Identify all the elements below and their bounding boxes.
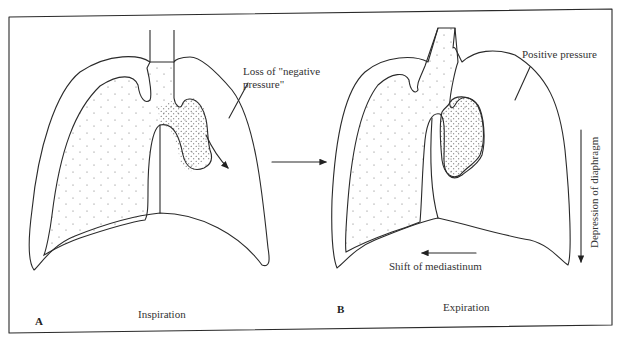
panel-a: Loss of "negative pressure" A Inspiratio… [29,30,320,327]
panel-b-letter: B [337,303,345,315]
pneumothorax-diagram: Loss of "negative pressure" A Inspiratio… [0,0,627,344]
panel-a-letter: A [35,315,43,327]
shift-mediastinum-label: Shift of mediastinum [389,260,482,272]
panel-b-caption: Expiration [443,301,490,313]
panel-a-caption: Inspiration [138,308,186,320]
panel-a-annotation: Loss of "negative [243,65,320,77]
panel-b-annotation: Positive pressure [522,48,597,60]
panel-b: Positive pressure Shift of mediastinum D… [332,28,600,315]
depression-diaphragm-label: Depression of diaphragm [588,136,600,248]
panel-a-annotation-line2: pressure" [243,78,284,90]
